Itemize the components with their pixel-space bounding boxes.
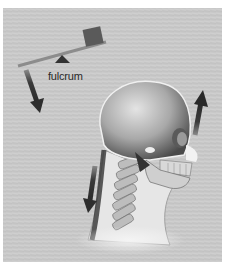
fulcrum-label: fulcrum <box>48 70 83 82</box>
illustration-panel: fulcrum <box>3 8 222 262</box>
head-lever-illustration <box>3 8 222 262</box>
